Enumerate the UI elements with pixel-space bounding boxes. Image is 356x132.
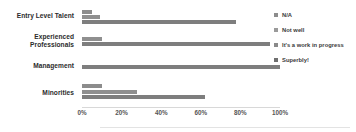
x-tick-0: 0% (77, 109, 86, 116)
bar-group-management (82, 65, 280, 75)
x-axis-tick-labels: 0% 20% 40% 60% 80% 100% (82, 109, 280, 121)
legend-label-not-well: Not well (282, 27, 304, 33)
grouped-bar-chart: Entry Level Talent Experienced Professio… (0, 0, 356, 132)
bar-management-work-in-progress[interactable] (82, 65, 280, 69)
bar-group-experienced-professionals (82, 37, 280, 53)
legend-swatch-icon-superbly (274, 58, 278, 62)
x-tick-60: 60% (194, 109, 207, 116)
legend-item-superbly[interactable]: Superbly! (274, 53, 354, 66)
bar-group-minorities (82, 84, 280, 104)
bar-minorities-na[interactable] (82, 84, 102, 88)
plot-area (82, 6, 280, 107)
legend-label-na: N/A (282, 12, 292, 18)
legend-label-superbly: Superbly! (282, 57, 309, 63)
bar-group-entry-level-talent (82, 10, 280, 30)
x-tick-40: 40% (155, 109, 168, 116)
legend-item-na[interactable]: N/A (274, 8, 354, 21)
bar-minorities-not-well[interactable] (82, 90, 137, 94)
bar-minorities-work-in-progress[interactable] (82, 95, 205, 99)
category-label-management: Management (0, 62, 74, 70)
category-axis-labels: Entry Level Talent Experienced Professio… (0, 0, 78, 106)
category-label-experienced-professionals: Experienced Professionals (0, 33, 74, 49)
x-tick-80: 80% (234, 109, 247, 116)
legend-item-work-in-progress[interactable]: It's a work in progress (274, 38, 354, 51)
x-tick-20: 20% (115, 109, 128, 116)
bar-entry-level-talent-work-in-progress[interactable] (82, 20, 236, 24)
bar-experienced-professionals-work-in-progress[interactable] (82, 42, 270, 46)
category-label-minorities: Minorities (0, 89, 74, 97)
x-tick-100: 100% (272, 109, 288, 116)
bottom-divider (100, 127, 350, 128)
bar-experienced-professionals-not-well[interactable] (82, 37, 102, 41)
legend-swatch-icon-na (274, 13, 278, 17)
legend-label-work-in-progress: It's a work in progress (282, 42, 344, 48)
x-axis-line (82, 107, 280, 108)
legend-swatch-icon-work-in-progress (274, 43, 278, 47)
category-label-entry-level-talent: Entry Level Talent (0, 12, 74, 20)
bar-entry-level-talent-na[interactable] (82, 10, 92, 14)
chart-legend: N/A Not well It's a work in progress Sup… (274, 8, 354, 68)
bar-entry-level-talent-not-well[interactable] (82, 15, 100, 19)
legend-swatch-icon-not-well (274, 28, 278, 32)
legend-item-not-well[interactable]: Not well (274, 23, 354, 36)
